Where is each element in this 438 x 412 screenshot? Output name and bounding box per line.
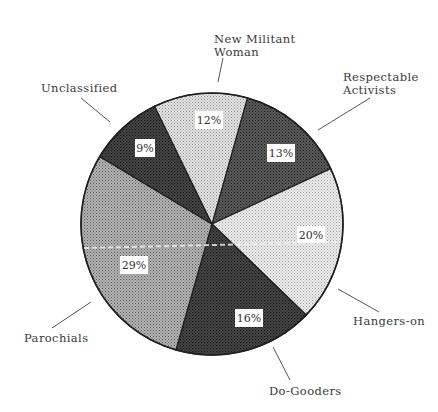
leader-nmw	[218, 58, 223, 82]
svg-text:20%: 20%	[299, 229, 323, 242]
pct-label-dogooders: 16%	[235, 309, 263, 327]
pct-label-nmw: 12%	[195, 111, 223, 129]
label-new-militant-woman-line2: Woman	[214, 45, 259, 59]
label-parochials: Parochials	[24, 331, 88, 345]
pct-label-parochials: 29%	[120, 256, 148, 274]
leader-dogooders	[273, 347, 290, 380]
leader-parochials	[52, 302, 91, 328]
svg-text:9%: 9%	[136, 142, 153, 155]
label-do-gooders: Do-Gooders	[269, 384, 342, 398]
label-respectable-activists-line1: Respectable	[343, 70, 419, 84]
svg-text:29%: 29%	[122, 259, 146, 272]
pct-label-unclassified: 9%	[135, 139, 155, 157]
label-unclassified: Unclassified	[41, 81, 118, 95]
leader-hangers	[338, 289, 379, 312]
label-hangers-on: Hangers-on	[353, 314, 425, 328]
label-respectable-activists-line2: Activists	[342, 83, 396, 97]
svg-text:16%: 16%	[237, 312, 261, 325]
svg-text:13%: 13%	[269, 147, 293, 160]
pie-chart: 12% 13% 9% 20% 29% 16% New Militant Woma…	[0, 0, 438, 412]
leader-unclassified	[81, 98, 110, 122]
label-new-militant-woman-line1: New Militant	[214, 32, 295, 46]
pct-label-hangers: 20%	[297, 226, 325, 243]
pct-label-respectable: 13%	[267, 144, 295, 162]
svg-text:12%: 12%	[197, 114, 221, 127]
leader-respectable	[318, 98, 370, 130]
